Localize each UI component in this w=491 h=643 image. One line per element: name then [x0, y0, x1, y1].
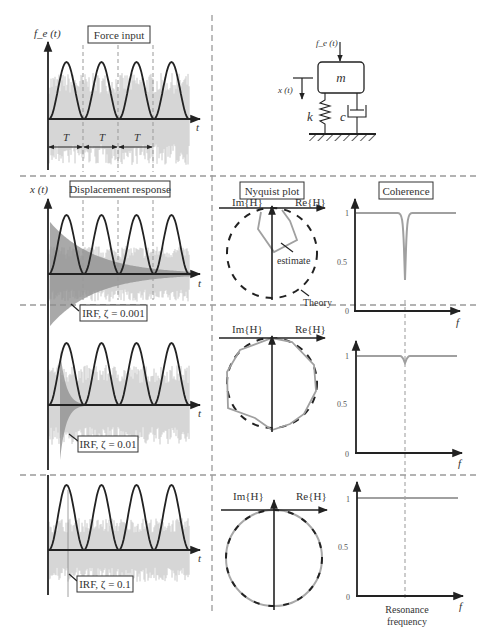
response-row-1: x (t) t Displacement response IRF, ζ = 0…	[29, 181, 202, 326]
svg-text:0: 0	[345, 307, 349, 316]
response-title: Displacement response	[69, 183, 171, 195]
irf-label-1: IRF, ζ = 0.001	[82, 307, 145, 320]
response-t-label: t	[198, 552, 202, 564]
freq-label: f	[456, 316, 461, 328]
coherence-title: Coherence	[382, 185, 429, 197]
spring-label: k	[307, 109, 313, 124]
irf-label-3: IRF, ζ = 0.1	[79, 578, 131, 591]
svg-text:0: 0	[346, 593, 350, 602]
irf-label-2: IRF, ζ = 0.01	[79, 438, 136, 451]
nyquist-estimate-1	[258, 210, 297, 252]
svg-text:1: 1	[345, 209, 349, 218]
coherence-curve-1	[356, 213, 456, 280]
svg-text:1: 1	[345, 352, 349, 361]
mass-label: m	[336, 70, 345, 85]
coherence-plot-3: 1 0.5 0 f Resonance frequency	[338, 482, 464, 627]
theory-label: Theory	[303, 297, 332, 308]
im-label: Im{H}	[233, 490, 264, 502]
period-label: T	[63, 131, 70, 143]
coherence-plot-1: Coherence 1 0.5 0 f	[337, 182, 461, 328]
freq-label: f	[458, 457, 463, 469]
response-t-label: t	[198, 277, 202, 289]
nyquist-plot-3: Im{H} Re{H}	[221, 490, 327, 610]
nyquist-plot-1: Nyquist plot Im{H} Re{H} estimate Theory	[219, 182, 332, 308]
im-label: Im{H}	[232, 196, 263, 208]
re-label: Re{H}	[295, 323, 326, 335]
figure: f_e (t) t Force input T T T f_e (t) m x …	[0, 0, 491, 643]
re-label: Re{H}	[296, 490, 327, 502]
coherence-plot-2: 1 0.5 0 f	[337, 341, 463, 469]
force-input-panel: f_e (t) t Force input T T T	[34, 26, 200, 172]
period-label: T	[134, 131, 141, 143]
sdof-model-diagram: f_e (t) m x (t) k c	[277, 38, 376, 141]
force-t-label: t	[196, 121, 200, 133]
im-label: Im{H}	[232, 323, 263, 335]
svg-text:1: 1	[346, 495, 350, 504]
ground	[309, 135, 376, 141]
damper-label: c	[340, 109, 346, 124]
svg-text:0.5: 0.5	[338, 543, 348, 552]
model-disp-label: x (t)	[277, 85, 293, 95]
response-t-label: t	[198, 407, 202, 419]
nyquist-plot-2: Im{H} Re{H}	[219, 323, 326, 432]
svg-text:0.5: 0.5	[337, 258, 347, 267]
force-y-label: f_e (t)	[34, 27, 61, 40]
nyquist-title: Nyquist plot	[245, 185, 300, 197]
model-force-label: f_e (t)	[316, 38, 338, 48]
re-label: Re{H}	[295, 196, 326, 208]
period-label: T	[99, 131, 106, 143]
coherence-curve-2	[357, 356, 457, 363]
estimate-label: estimate	[277, 255, 311, 266]
svg-text:0.5: 0.5	[337, 400, 347, 409]
resonance-label: Resonance	[385, 604, 429, 615]
response-row-3: t IRF, ζ = 0.1	[48, 475, 202, 597]
damper	[348, 93, 366, 134]
spring	[320, 93, 330, 134]
svg-text:0: 0	[345, 450, 349, 459]
resonance-label: frequency	[387, 616, 427, 627]
force-title: Force input	[94, 29, 144, 41]
freq-label: f	[459, 600, 464, 612]
response-row-2: t IRF, ζ = 0.01	[48, 305, 202, 470]
response-y-label: x (t)	[29, 183, 48, 196]
